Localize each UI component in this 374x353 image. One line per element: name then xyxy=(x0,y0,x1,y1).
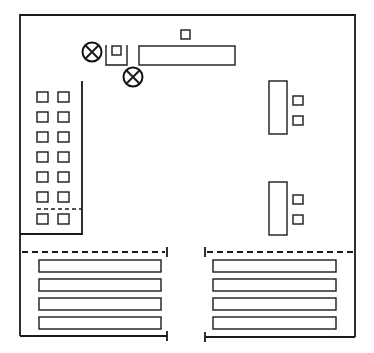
square-icon xyxy=(37,172,48,182)
square-icon xyxy=(293,116,303,125)
square-icon xyxy=(58,172,69,182)
square-icon xyxy=(181,30,190,39)
top-fixtures xyxy=(83,30,236,87)
bar xyxy=(213,260,336,272)
square-icon xyxy=(37,112,48,122)
right-unit-2 xyxy=(269,182,287,235)
bar xyxy=(39,279,161,291)
crossed-circle-icon xyxy=(83,43,102,62)
square-icon xyxy=(58,92,69,102)
crossed-circle-icon xyxy=(124,68,143,87)
square-icon xyxy=(37,92,48,102)
long-counter xyxy=(139,46,235,65)
square-icon xyxy=(58,192,69,202)
square-icon xyxy=(58,152,69,162)
bar xyxy=(213,317,336,329)
square-icon xyxy=(58,112,69,122)
floor-plan xyxy=(0,0,374,353)
left-room-wall xyxy=(20,81,82,234)
bar xyxy=(39,260,161,272)
square-icon xyxy=(37,132,48,142)
bar xyxy=(39,317,161,329)
bar xyxy=(39,298,161,310)
square-icon xyxy=(37,214,48,224)
square-icon xyxy=(293,195,303,204)
bottom-right-bars xyxy=(213,260,336,329)
dashed-partitions xyxy=(22,247,353,257)
right-units xyxy=(269,81,303,235)
square-icon xyxy=(37,152,48,162)
square-icon xyxy=(112,46,121,55)
bar xyxy=(213,298,336,310)
square-icon xyxy=(58,132,69,142)
bar xyxy=(213,279,336,291)
square-icon xyxy=(37,192,48,202)
square-icon xyxy=(293,215,303,224)
right-unit-1 xyxy=(269,81,287,134)
left-room xyxy=(20,81,82,234)
square-icon xyxy=(58,214,69,224)
left-seat-grid xyxy=(37,92,69,224)
square-icon xyxy=(293,96,303,105)
bottom-left-bars xyxy=(39,260,161,329)
